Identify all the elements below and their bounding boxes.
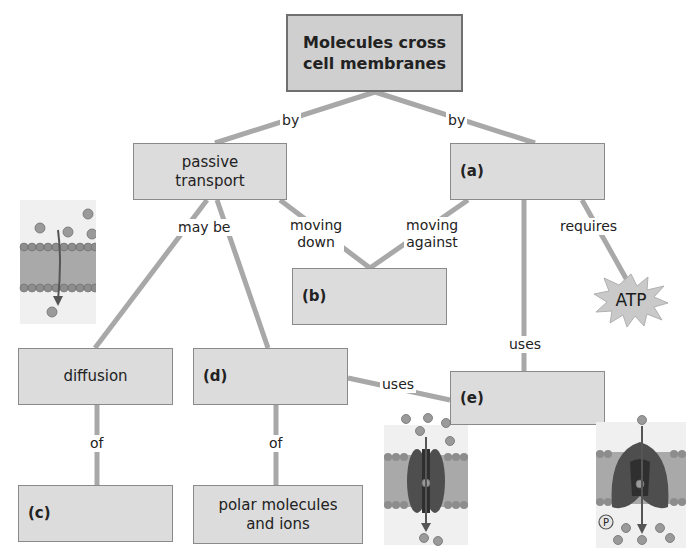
node-d-label: (d) (203, 367, 227, 386)
concept-map: by by may be moving down moving against … (0, 0, 692, 556)
node-e: (e) (450, 371, 605, 425)
membrane-diffusion-icon (10, 200, 96, 324)
atp-starburst: ATP (592, 272, 670, 328)
passive-line1: passive (182, 153, 239, 171)
link-label-uses-a-e: uses (507, 336, 543, 353)
node-polar-molecules: polar molecules and ions (193, 485, 363, 544)
link-label-moving-against: moving against (404, 217, 460, 251)
link-label-uses-d-e: uses (380, 376, 416, 393)
node-diffusion-label: diffusion (63, 367, 127, 386)
node-passive-transport: passive transport (133, 143, 287, 200)
moving-against-line1: moving (406, 217, 458, 233)
root-line2: cell membranes (303, 54, 446, 73)
moving-down-line1: moving (290, 217, 342, 233)
link-label-of-left: of (88, 435, 106, 452)
phosphate-label: P (603, 517, 609, 528)
node-a: (a) (450, 143, 605, 200)
moving-against-line2: against (406, 234, 458, 250)
node-b-label: (b) (302, 287, 326, 306)
node-d: (d) (193, 348, 348, 405)
pump-protein-icon: P (592, 412, 688, 554)
link-label-may-be: may be (176, 219, 232, 236)
polar-line1: polar molecules (218, 496, 337, 514)
link-label-of-right: of (267, 435, 285, 452)
node-c-label: (c) (28, 504, 51, 523)
node-diffusion: diffusion (18, 348, 173, 405)
node-b: (b) (292, 268, 447, 325)
passive-line2: transport (175, 172, 244, 190)
link-label-moving-down: moving down (288, 217, 344, 251)
atp-label: ATP (592, 290, 670, 310)
node-a-label: (a) (460, 162, 484, 181)
node-root: Molecules cross cell membranes (286, 14, 463, 92)
channel-protein-icon (380, 405, 468, 553)
polar-line2: and ions (246, 515, 310, 533)
link-label-requires: requires (558, 218, 619, 235)
link-label-by-right: by (446, 112, 467, 129)
node-c: (c) (18, 485, 173, 542)
moving-down-line2: down (297, 234, 335, 250)
root-line1: Molecules cross (303, 33, 446, 52)
link-label-by-left: by (280, 112, 301, 129)
